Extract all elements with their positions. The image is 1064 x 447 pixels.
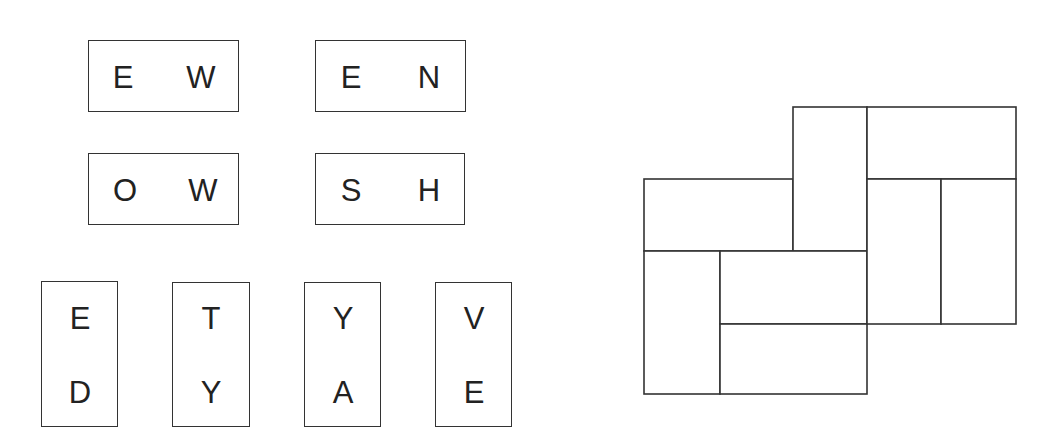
tiling-grid [0,0,1064,447]
grid-cell-middle-lower[interactable] [720,324,867,394]
grid-cell-middle-upper[interactable] [720,251,867,324]
grid-cell-top-right[interactable] [867,107,1016,179]
grid-cell-right-tall-2[interactable] [941,179,1016,324]
grid-cell-left-top[interactable] [644,179,793,251]
grid-cell-left-tall[interactable] [644,251,720,394]
grid-cell-tall-center[interactable] [793,107,867,251]
grid-cell-right-tall-1[interactable] [867,179,941,324]
